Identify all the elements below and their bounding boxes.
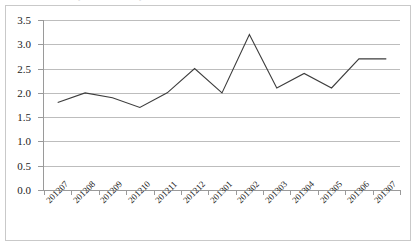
y-axis-tick [38,141,44,142]
y-axis-tick-label: 3.5 [17,14,31,26]
y-axis-tick [38,44,44,45]
y-axis-tick [38,93,44,94]
y-axis-tick-label: 0.0 [17,184,31,196]
y-axis-tick [38,20,44,21]
gridline-y [44,117,400,118]
y-axis-tick-label: 3.0 [17,38,31,50]
gridline-y [44,166,400,167]
chart-plot-area [44,20,400,190]
y-axis-tick [38,69,44,70]
x-axis-tick [400,190,401,195]
y-axis-tick-label: 2.5 [17,63,31,75]
chart-plot-wrapper: 3.53.02.52.01.51.00.50.0 201207201208201… [0,0,419,249]
gridline-y [44,20,400,21]
chart-screenshot: p p 3.53.02.52.01.51.00.50.0 20120720120… [0,0,419,249]
y-axis-tick [38,166,44,167]
gridline-y [44,93,400,94]
y-axis-tick [38,190,44,191]
y-axis-tick [38,117,44,118]
y-axis-tick-label: 1.0 [17,135,31,147]
y-axis-tick-label: 0.5 [17,160,31,172]
gridline-y [44,141,400,142]
y-axis-tick-label: 1.5 [17,111,31,123]
y-axis-tick-label: 2.0 [17,87,31,99]
gridline-y [44,44,400,45]
gridline-y [44,69,400,70]
